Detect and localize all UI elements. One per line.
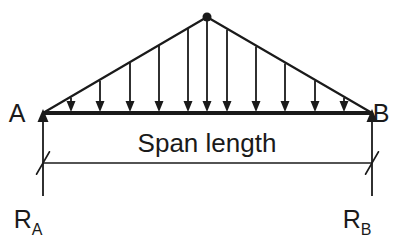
load-slope-left-line [43,17,207,113]
load-arrow-head [67,101,76,112]
reaction-label-ra-subscript: A [32,221,43,238]
load-arrow-head [184,101,193,112]
load-arrow-head [126,101,135,112]
load-arrow-head [96,101,105,112]
beam-diagram-svg: A B Span length RA RB [0,0,407,240]
load-arrow-head [252,101,261,112]
support-label-a: A [9,99,26,127]
distributed-load-arrows [67,18,349,112]
load-arrow-head [340,101,349,112]
load-apex-point-marker [203,13,212,22]
left-reaction-arrow [38,109,49,196]
reaction-label-rb-subscript: B [361,221,372,238]
load-arrow-head [155,101,164,112]
load-arrow-head [281,101,290,112]
load-arrow-head [203,101,212,112]
reaction-label-rb: RB [343,205,372,238]
reaction-label-ra-base: R [14,205,32,233]
beam-load-diagram: A B Span length RA RB [0,0,407,240]
span-length-label: Span length [138,128,277,158]
support-label-b: B [373,99,390,127]
reaction-label-rb-base: R [343,205,361,233]
reaction-label-ra: RA [14,205,43,238]
load-slope-right-line [207,17,372,113]
load-arrow-head [223,101,232,112]
load-arrow-head [311,101,320,112]
